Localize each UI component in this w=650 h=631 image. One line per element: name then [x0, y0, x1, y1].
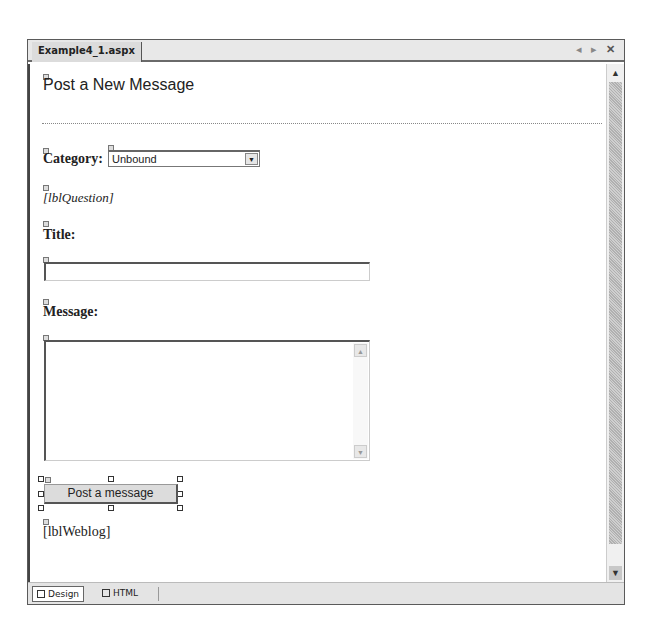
- tab-design-label: Design: [48, 589, 79, 599]
- category-selected-value: Unbound: [112, 153, 157, 165]
- document-tab[interactable]: Example4_1.aspx: [32, 42, 142, 62]
- question-label: [lblQuestion]: [43, 190, 114, 206]
- category-dropdown[interactable]: Unbound ▼: [108, 150, 260, 167]
- scroll-up-icon[interactable]: ▲: [354, 344, 367, 357]
- resize-handle[interactable]: [177, 505, 183, 511]
- designer-window: Example4_1.aspx ◂ ▸ ✕ Post a New Message…: [27, 39, 625, 605]
- design-view-icon: [37, 590, 45, 598]
- scroll-down-icon[interactable]: ▼: [609, 566, 622, 580]
- post-message-button[interactable]: Post a message: [44, 484, 178, 504]
- divider: [158, 587, 159, 601]
- scroll-left-icon[interactable]: ◂: [576, 43, 585, 56]
- resize-handle[interactable]: [38, 476, 44, 482]
- resize-handle[interactable]: [177, 476, 183, 482]
- design-surface[interactable]: Post a New Message Category: Unbound ▼ […: [28, 64, 606, 582]
- resize-handle[interactable]: [108, 476, 114, 482]
- scroll-down-icon[interactable]: ▼: [354, 445, 367, 458]
- resize-handle[interactable]: [108, 505, 114, 511]
- tab-controls: ◂ ▸ ✕: [576, 43, 618, 56]
- message-textarea[interactable]: ▲ ▼: [44, 340, 370, 461]
- control-glyph-icon: [45, 477, 51, 483]
- scroll-up-icon[interactable]: ▲: [609, 66, 622, 80]
- scrollbar-thumb[interactable]: [609, 82, 622, 544]
- title-input[interactable]: [44, 262, 370, 281]
- view-tab-bar: Design HTML: [28, 582, 624, 604]
- chevron-down-icon[interactable]: ▼: [245, 153, 258, 165]
- tab-design[interactable]: Design: [32, 586, 84, 602]
- title-label: Title:: [43, 227, 75, 243]
- category-label: Category:: [43, 151, 103, 167]
- resize-handle[interactable]: [38, 505, 44, 511]
- page-heading: Post a New Message: [43, 76, 194, 94]
- vertical-scrollbar[interactable]: ▲ ▼: [606, 64, 624, 582]
- horizontal-rule: [42, 123, 602, 124]
- html-view-icon: [102, 589, 110, 597]
- tab-html[interactable]: HTML: [98, 586, 142, 602]
- document-tab-bar: Example4_1.aspx ◂ ▸ ✕: [28, 40, 624, 62]
- message-label: Message:: [43, 304, 98, 320]
- close-icon[interactable]: ✕: [606, 43, 618, 56]
- scroll-right-icon[interactable]: ▸: [591, 43, 600, 56]
- weblog-label: [lblWeblog]: [43, 524, 110, 540]
- tab-html-label: HTML: [113, 588, 138, 598]
- textarea-scrollbar[interactable]: ▲ ▼: [353, 343, 368, 459]
